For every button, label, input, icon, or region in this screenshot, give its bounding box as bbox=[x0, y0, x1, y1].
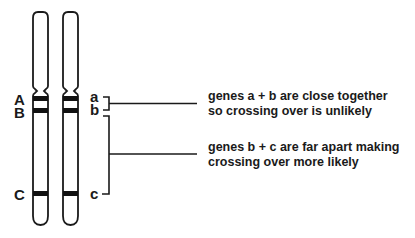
allele-label-C: C bbox=[14, 187, 25, 202]
chromosome-2 bbox=[63, 12, 78, 225]
allele-label-B: B bbox=[14, 105, 25, 120]
annotation-a-b-line2: so crossing over is unlikely bbox=[208, 104, 388, 119]
chromosome-diagram bbox=[0, 0, 415, 238]
annotation-b-c-line2: crossing over more likely bbox=[208, 155, 399, 170]
annotation-b-c-line1: genes b + c are far apart making bbox=[208, 140, 399, 155]
allele-label-c: c bbox=[90, 186, 98, 201]
gene-band-b bbox=[63, 108, 78, 113]
chromosome-1 bbox=[33, 12, 48, 225]
annotation-b-c: genes b + c are far apart making crossin… bbox=[208, 140, 399, 170]
bracket-a-b bbox=[103, 97, 197, 110]
annotation-a-b: genes a + b are close together so crossi… bbox=[208, 89, 388, 119]
gene-band-a bbox=[63, 96, 78, 101]
gene-band-C bbox=[33, 191, 48, 196]
bracket-b-c bbox=[102, 116, 197, 194]
annotation-a-b-line1: genes a + b are close together bbox=[208, 89, 388, 104]
allele-label-b: b bbox=[90, 102, 99, 117]
gene-band-B bbox=[33, 108, 48, 113]
gene-band-c bbox=[63, 191, 78, 196]
gene-band-A bbox=[33, 96, 48, 101]
